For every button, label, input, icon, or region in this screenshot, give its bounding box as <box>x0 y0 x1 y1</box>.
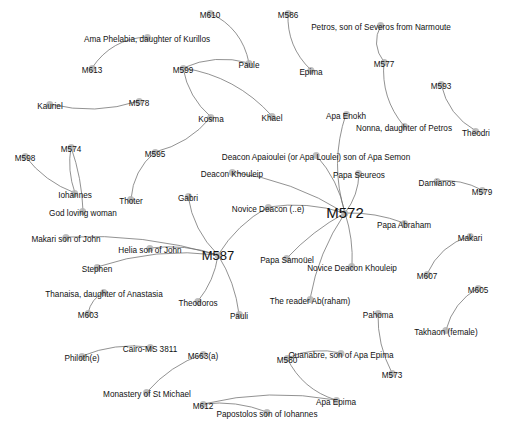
node-label: M578 <box>129 100 149 108</box>
node-label: Kauriel <box>37 103 63 111</box>
graph-node-kauriel[interactable]: Kauriel <box>37 96 63 112</box>
graph-node-cairoms3811[interactable]: Cairo-MS 3811 <box>123 339 177 355</box>
graph-node-philothe[interactable]: Philoth(e) <box>64 348 99 364</box>
node-label: Petros, son of Severos from Narmoute <box>311 24 451 32</box>
node-label: God loving woman <box>49 210 117 218</box>
graph-node-thanaisa[interactable]: Thanaisa, daughter of Anastasia <box>45 284 162 300</box>
node-label: Novice Deacon (..e) <box>232 206 304 214</box>
graph-node-deaconkhouleip[interactable]: Deacon Khouleip <box>201 164 263 180</box>
graph-node-m572[interactable]: M572 <box>326 205 364 221</box>
graph-node-takhaonfemale[interactable]: Takhaon (female) <box>414 322 477 338</box>
graph-node-m607[interactable]: M607 <box>417 266 437 282</box>
graph-edge <box>310 213 345 299</box>
graph-node-godlovingwoman[interactable]: God loving woman <box>49 203 117 219</box>
graph-node-papostolos[interactable]: Papostolos son of Iohannes <box>216 404 317 420</box>
graph-node-m598[interactable]: M598 <box>15 148 35 164</box>
graph-node-amaphelabia[interactable]: Ama Phelabia, daughter of Kurillos <box>84 29 210 45</box>
graph-node-kosma[interactable]: Kosma <box>198 109 223 125</box>
node-label: Paule <box>239 62 260 70</box>
node-label: Theodri <box>462 130 490 138</box>
node-label: Papa Abraham <box>377 222 431 230</box>
node-label: M612 <box>193 403 213 411</box>
node-label: M586 <box>278 12 298 20</box>
node-label: Apa Epima <box>316 399 356 407</box>
graph-node-thereaderabraham[interactable]: The reader Ab(raham) <box>270 291 351 307</box>
node-label: Iohannes <box>58 192 92 200</box>
node-label: Philoth(e) <box>64 355 99 363</box>
graph-node-monasterystmichael[interactable]: Monastery of St Michael <box>103 384 191 400</box>
node-label: Cairo-MS 3811 <box>123 346 177 354</box>
graph-node-m605[interactable]: M605 <box>468 280 488 296</box>
node-label: Pahoma <box>363 312 394 320</box>
node-label: M573 <box>382 372 402 380</box>
graph-node-m577[interactable]: M577 <box>374 54 394 70</box>
graph-node-novicedeaconkhouleip[interactable]: Novice Deacon Khouleip <box>307 258 397 274</box>
graph-edge <box>50 101 139 109</box>
graph-edge <box>384 62 404 126</box>
node-label: M572 <box>326 205 364 220</box>
graph-node-m593[interactable]: M593 <box>431 76 451 92</box>
graph-node-paule[interactable]: Paule <box>239 55 260 71</box>
node-label: M603 <box>78 312 98 320</box>
graph-node-m586[interactable]: M586 <box>278 5 298 21</box>
graph-node-papasamouel[interactable]: Papa Samoüel <box>260 250 314 266</box>
graph-node-iohannes[interactable]: Iohannes <box>58 185 92 201</box>
graph-node-khael[interactable]: Khael <box>262 108 283 124</box>
node-label: M593 <box>431 83 451 91</box>
graph-node-thoter[interactable]: Thoter <box>119 191 143 207</box>
graph-node-novicedeacone[interactable]: Novice Deacon (..e) <box>232 199 304 215</box>
graph-node-ouanabre[interactable]: Ouanabre, son of Apa Epima <box>288 345 393 361</box>
node-label: Novice Deacon Khouleip <box>307 265 397 273</box>
node-label: Papa Seureos <box>333 172 385 180</box>
node-label: Takhaon (female) <box>414 329 477 337</box>
graph-node-theodoros[interactable]: Theodoros <box>178 293 217 309</box>
graph-edge <box>378 313 392 373</box>
graph-edge <box>183 68 272 116</box>
graph-node-m574[interactable]: M574 <box>61 139 81 155</box>
graph-node-pauli[interactable]: Pauli <box>230 306 248 322</box>
graph-node-theodri[interactable]: Theodri <box>462 123 490 139</box>
graph-node-m603[interactable]: M603 <box>78 305 98 321</box>
graph-node-heliasonofjohn[interactable]: Helia son of John <box>118 240 181 256</box>
graph-node-m579[interactable]: M579 <box>472 182 492 198</box>
graph-node-m599[interactable]: M599 <box>173 60 193 76</box>
graph-edge <box>337 114 346 213</box>
graph-node-papaseureos[interactable]: Papa Seureos <box>333 165 385 181</box>
graph-node-m578[interactable]: M578 <box>129 93 149 109</box>
network-graph: M613Ama Phelabia, daughter of KurillosM6… <box>0 0 507 431</box>
node-label: Deacon Apaioulei (or Apa Loulei) son of … <box>222 154 410 162</box>
node-label: Gabri <box>178 195 198 203</box>
node-label: M579 <box>472 189 492 197</box>
node-label: M605 <box>468 287 488 295</box>
node-label: M587 <box>202 249 235 262</box>
graph-node-epima[interactable]: Epima <box>299 62 322 78</box>
graph-node-m612[interactable]: M612 <box>193 396 213 412</box>
graph-node-pahoma[interactable]: Pahoma <box>363 305 394 321</box>
graph-node-deaconapaioulei[interactable]: Deacon Apaioulei (or Apa Loulei) son of … <box>222 147 410 163</box>
graph-node-m610[interactable]: M610 <box>200 5 220 21</box>
graph-node-petrosseveros[interactable]: Petros, son of Severos from Narmoute <box>311 17 451 33</box>
graph-node-makarisonofjohn[interactable]: Makari son of John <box>31 229 100 245</box>
node-label: M610 <box>200 12 220 20</box>
node-label: The reader Ab(raham) <box>270 298 351 306</box>
node-label: Thanaisa, daughter of Anastasia <box>45 291 162 299</box>
graph-node-papaabraham[interactable]: Papa Abraham <box>377 215 431 231</box>
graph-node-apaepima[interactable]: Apa Epima <box>316 392 356 408</box>
node-label: M598 <box>15 155 35 163</box>
node-label: Pauli <box>230 313 248 321</box>
graph-node-nonna[interactable]: Nonna, daughter of Petros <box>356 118 452 134</box>
graph-node-m587[interactable]: M587 <box>202 247 235 263</box>
graph-node-m595[interactable]: M595 <box>145 144 165 160</box>
graph-node-gabri[interactable]: Gabri <box>178 188 198 204</box>
graph-node-makari[interactable]: Makari <box>458 228 483 244</box>
node-label: Monastery of St Michael <box>103 391 191 399</box>
graph-node-m663a[interactable]: M663(a) <box>188 346 219 362</box>
graph-node-m613[interactable]: M613 <box>82 60 102 76</box>
node-label: M577 <box>374 61 394 69</box>
graph-node-damianos[interactable]: Damianos <box>419 173 456 189</box>
node-label: M613 <box>82 67 102 75</box>
node-label: Stephen <box>82 266 113 274</box>
graph-node-m573[interactable]: M573 <box>382 365 402 381</box>
graph-node-stephen[interactable]: Stephen <box>82 259 113 275</box>
node-label: Makari son of John <box>31 236 100 244</box>
